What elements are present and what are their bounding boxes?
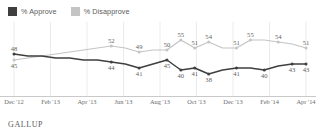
svg-text:50: 50 <box>164 41 171 48</box>
data-labels: 4844414540413841404343455249505551545155… <box>11 31 310 84</box>
svg-text:51: 51 <box>303 39 310 46</box>
svg-text:40: 40 <box>178 72 185 79</box>
legend-label-approve: % Approve <box>21 7 57 16</box>
x-axis-tick-label: Oct '13 <box>187 98 205 105</box>
svg-text:51: 51 <box>191 39 198 46</box>
square-marker-icon <box>71 7 80 16</box>
x-axis-tick-label: Dec '12 <box>4 98 23 105</box>
legend-label-disapprove: % Disapprove <box>84 7 130 16</box>
svg-text:54: 54 <box>275 33 282 40</box>
x-axis: Dec '12Feb '13Apr '13Jun '13Aug '13Oct '… <box>0 96 316 110</box>
x-axis-tick-label: Feb '14 <box>260 98 279 105</box>
svg-text:51: 51 <box>233 39 240 46</box>
x-axis-tick-label: Dec '13 <box>223 98 242 105</box>
svg-text:38: 38 <box>205 76 212 83</box>
x-axis-tick-label: Aug '13 <box>150 98 170 105</box>
gridlines <box>14 22 306 96</box>
svg-text:48: 48 <box>11 45 18 52</box>
svg-text:40: 40 <box>261 72 268 79</box>
svg-text:49: 49 <box>136 43 143 50</box>
svg-text:45: 45 <box>164 62 171 69</box>
svg-text:41: 41 <box>136 70 143 77</box>
x-axis-tick-label: Jun '13 <box>114 98 132 105</box>
square-marker-icon <box>8 7 17 16</box>
axis-rule <box>0 96 316 97</box>
svg-text:54: 54 <box>205 33 212 40</box>
line-chart-svg: 4844414540413841404343455249505551545155… <box>0 22 316 96</box>
svg-text:52: 52 <box>108 37 115 44</box>
svg-text:41: 41 <box>191 70 198 77</box>
svg-text:43: 43 <box>303 66 310 73</box>
legend-item-disapprove: % Disapprove <box>71 7 130 16</box>
svg-text:55: 55 <box>178 31 185 38</box>
x-axis-tick-labels: Dec '12Feb '13Apr '13Jun '13Aug '13Oct '… <box>0 98 316 110</box>
chart-legend: % Approve % Disapprove <box>8 5 130 17</box>
plot-area: 4844414540413841404343455249505551545155… <box>0 22 316 96</box>
x-axis-tick-label: Apr '14 <box>296 98 315 105</box>
svg-text:45: 45 <box>11 62 18 69</box>
svg-text:41: 41 <box>233 70 240 77</box>
svg-text:43: 43 <box>289 66 296 73</box>
x-axis-tick-label: Feb '13 <box>41 98 60 105</box>
x-axis-tick-label: Apr '13 <box>77 98 96 105</box>
source-attribution: GALLUP <box>8 120 43 129</box>
legend-item-approve: % Approve <box>8 7 57 16</box>
svg-text:44: 44 <box>108 64 115 71</box>
chart-container: % Approve % Disapprove 48444145404138414… <box>0 0 316 136</box>
svg-text:55: 55 <box>247 31 254 38</box>
